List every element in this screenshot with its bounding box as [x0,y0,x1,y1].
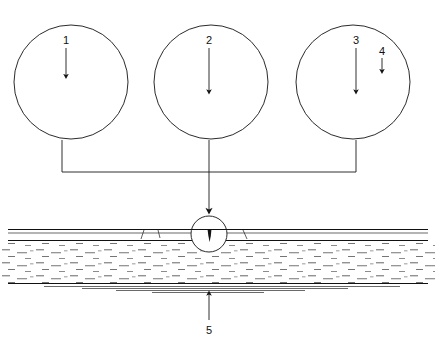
callout-label-5: 5 [206,324,212,336]
detail-circle-1-outline [14,25,128,139]
crack-repair-figure: 1 2 [0,0,435,345]
connector-bracket [62,140,356,211]
detail-circle-2-group: 2 [150,24,272,142]
detail-circle-3-group: 3 4 [292,24,414,142]
callout-label-1: 1 [63,34,69,46]
road-cross-section-group: 5 [0,216,435,336]
callout-label-3: 3 [353,34,359,46]
figure-canvas: 1 2 [0,0,435,345]
callout-label-4: 4 [379,45,385,57]
callout-label-2: 2 [206,34,212,46]
detail-circle-1-group: 1 [10,24,132,142]
